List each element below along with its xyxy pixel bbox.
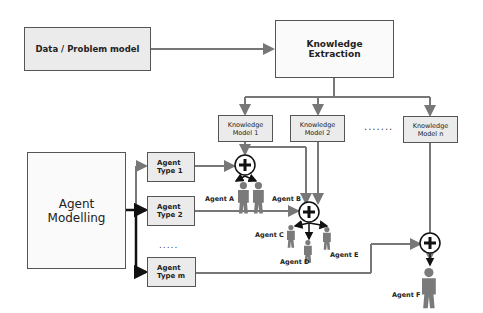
knowledge-extraction-box: Knowledge Extraction [275, 20, 394, 78]
at2-line1: Agent [157, 203, 181, 211]
agent-type-m-box: Agent Type m [147, 257, 196, 287]
data-problem-model-box: Data / Problem model [24, 27, 151, 71]
at2-line2: Type 2 [157, 211, 183, 219]
knowledge-model-2-box: Knowledge Model 2 [290, 115, 345, 142]
agent-type-1-box: Agent Type 1 [147, 152, 195, 182]
ke-line2: Extraction [308, 49, 360, 59]
km2-line1: Knowledge [300, 121, 336, 129]
am-line1: Agent [59, 197, 95, 211]
km1-line2: Model 1 [233, 129, 259, 137]
agent-d-label: Agent D [280, 258, 310, 266]
agent-f-label: Agent F [392, 291, 421, 299]
km-ellipsis: ....... [364, 121, 393, 132]
knowledge-model-1-box: Knowledge Model 1 [218, 115, 273, 142]
data-model-label: Data / Problem model [36, 44, 140, 54]
km1-line1: Knowledge [228, 121, 264, 129]
at1-line1: Agent [157, 159, 181, 167]
type-ellipsis: ..... [159, 240, 178, 250]
km2-line2: Model 2 [305, 129, 331, 137]
atm-line2: Type m [157, 272, 185, 280]
knowledge-model-n-box: Knowledge Model n [403, 116, 458, 143]
agent-e-label: Agent E [330, 251, 359, 259]
agent-c-label: Agent C [255, 231, 284, 239]
at1-line2: Type 1 [157, 167, 183, 175]
atm-line1: Agent [157, 264, 181, 272]
agent-b-label: Agent B [272, 195, 301, 203]
agent-type-2-box: Agent Type 2 [147, 196, 195, 226]
agent-person-icon [238, 182, 436, 308]
agent-a-label: Agent A [205, 195, 234, 203]
ke-line1: Knowledge [306, 39, 362, 49]
kmn-line2: Model n [418, 130, 444, 138]
kmn-line1: Knowledge [413, 122, 449, 130]
agent-modelling-box: Agent Modelling [27, 152, 126, 269]
am-line2: Modelling [48, 211, 106, 225]
